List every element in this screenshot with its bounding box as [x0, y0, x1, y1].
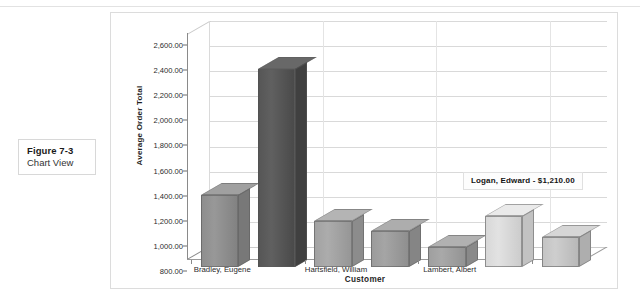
y-axis-tick-label: 2,000.00 [153, 116, 183, 125]
y-axis-tick-label: 2,600.00 [153, 41, 183, 50]
chart-panel: Average Order Total 2,600.002,400.002,20… [110, 12, 618, 289]
page-top-rule [0, 6, 640, 7]
x-axis-tick-mark [305, 260, 306, 264]
bar-front-face [201, 195, 239, 267]
x-axis-tick-mark [191, 260, 192, 264]
x-axis-tick-label: Hartsfield, William [305, 265, 367, 274]
bar-side-face [295, 62, 307, 267]
x-axis-title: Customer [111, 275, 619, 284]
bar-side-face [238, 189, 250, 267]
bar-2[interactable] [258, 69, 296, 267]
x-axis-tick-labels: Bradley, EugeneHartsfield, WilliamLamber… [187, 260, 617, 276]
figure-caption-text: Chart View [27, 157, 73, 169]
y-axis-tick-label: 1,800.00 [153, 141, 183, 150]
y-axis-tick-label: 2,400.00 [153, 66, 183, 75]
y-axis-tick-label: 1,400.00 [153, 191, 183, 200]
x-axis-tick-mark [532, 260, 533, 264]
y-axis-tick-label: 1,000.00 [153, 241, 183, 250]
bar-top-face [542, 225, 600, 237]
y-axis-tick-label: 2,200.00 [153, 91, 183, 100]
bar-top-face [485, 204, 543, 216]
bars-layer [187, 21, 617, 261]
bar-top-face [258, 57, 316, 69]
data-label-tooltip: Logan, Edward - $1,210.00 [463, 172, 583, 190]
bar-1[interactable] [201, 195, 239, 267]
figure-caption-box: Figure 7-3 Chart View [18, 139, 96, 175]
y-axis-tick-label: 1,600.00 [153, 166, 183, 175]
x-axis-tick-mark [418, 260, 419, 264]
y-axis-tick-label: 1,200.00 [153, 216, 183, 225]
bar-side-face [522, 209, 534, 267]
y-axis-tick-labels: 2,600.002,400.002,200.002,000.001,800.00… [129, 33, 183, 257]
x-axis-tick-label: Lambert, Albert [423, 265, 476, 274]
figure-label: Figure 7-3 [27, 145, 73, 157]
x-axis-tick-label: Bradley, Eugene [194, 265, 251, 274]
bar-front-face [258, 69, 296, 267]
bar-top-face [201, 183, 259, 195]
